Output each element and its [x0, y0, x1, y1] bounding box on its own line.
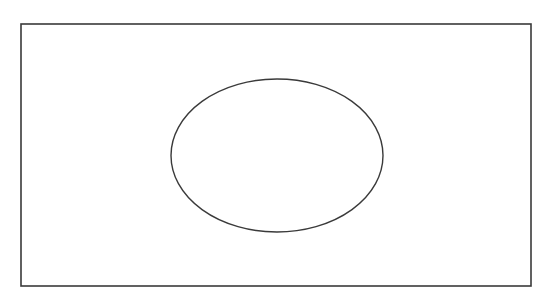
- venn-diagram: [0, 0, 548, 301]
- set-ellipse: [171, 79, 383, 232]
- universal-set-rectangle: [21, 24, 531, 286]
